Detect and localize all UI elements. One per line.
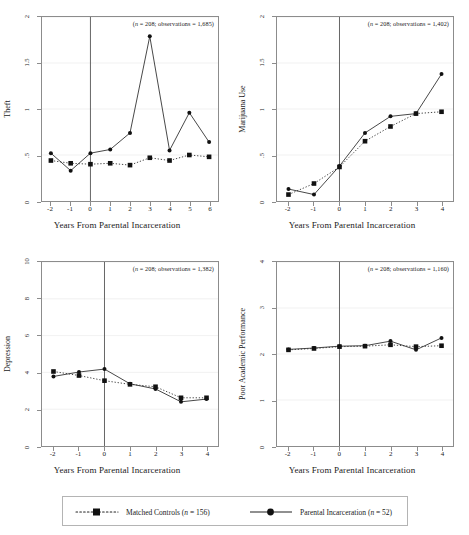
x-tick-label: -2 [278,450,298,458]
legend-label-matched-controls: Matched Controls (n = 156) [126,508,210,517]
x-tick-label: 4 [432,205,452,213]
x-tick-label: 6 [200,205,220,213]
x-tick-label: 2 [381,205,401,213]
x-tick-mark [104,447,105,451]
x-tick-label: 2 [381,450,401,458]
y-tick-label: 0 [258,192,265,212]
x-tick-mark [288,447,289,451]
data-point-marker [337,344,342,349]
x-tick-label: 4 [432,450,452,458]
plot-area-theft: (n = 208; observations = 1,685) [41,16,219,202]
y-tick-label: 0 [258,437,265,457]
x-tick-mark [182,447,183,451]
data-point-marker [363,344,368,349]
x-tick-label: 3 [407,450,427,458]
x-tick-label: 4 [197,450,217,458]
x-tick-label: -1 [68,450,88,458]
x-tick-mark [339,447,340,451]
y-axis-label-poor-academic-performance: Poor Academic Performance [237,75,249,261]
data-point-marker [51,369,56,374]
x-tick-mark [442,202,443,206]
data-point-marker [179,395,184,400]
y-axis-label-theft: Theft [2,0,14,16]
data-point-marker [388,343,393,348]
data-point-marker [108,147,112,151]
x-axis-label-depression: Years From Parental Incarceration [0,465,234,475]
y-tick-mark [37,298,41,299]
x-tick-mark [50,202,51,206]
legend-item-parental-incarceration: Parental Incarceration (n = 52) [249,506,392,518]
x-tick-label: 1 [100,205,120,213]
data-point-marker [108,161,113,166]
x-tick-mark [313,202,314,206]
y-tick-mark [272,156,276,157]
y-tick-label: 1.5 [23,53,30,73]
y-tick-mark [37,63,41,64]
panel-annotation-theft: (n = 208; observations = 1,685) [133,20,214,27]
data-point-marker [69,169,73,173]
figure-panel-grid: (n = 208; observations = 1,685)0.511.52T… [0,0,469,535]
y-tick-label: .5 [23,146,30,166]
y-tick-mark [37,373,41,374]
x-tick-mark [150,202,151,206]
x-tick-mark [365,202,366,206]
y-tick-mark [272,109,276,110]
data-point-marker [207,155,212,160]
x-tick-mark [170,202,171,206]
data-point-marker [439,109,444,114]
data-point-marker [363,131,367,135]
data-point-marker [167,158,172,163]
y-tick-mark [272,447,276,448]
data-point-marker [286,192,291,197]
x-axis-label-poor-academic-performance: Years From Parental Incarceration [235,465,469,475]
x-tick-label: 0 [329,205,349,213]
x-tick-label: -1 [303,205,323,213]
data-point-marker [312,193,316,197]
x-tick-label: 3 [172,450,192,458]
chart-panel-marijuana-use: (n = 208; observations = 1,402)0.511.52M… [235,0,469,245]
data-point-marker [68,161,73,166]
y-axis-label-depression: Depression [2,75,14,261]
data-point-marker [148,34,152,38]
data-point-marker [312,346,317,351]
y-tick-label: 1 [258,391,265,411]
data-point-marker [363,139,368,144]
y-tick-mark [37,16,41,17]
x-tick-mark [78,447,79,451]
y-tick-mark [272,202,276,203]
y-tick-label: 1.5 [258,53,265,73]
x-tick-mark [207,447,208,451]
y-tick-mark [37,261,41,262]
y-tick-label: 2 [23,6,30,26]
plot-canvas-theft [42,17,218,201]
chart-panel-poor-academic-performance: (n = 208; observations = 1,160)01234Poor… [235,245,469,490]
x-tick-mark [110,202,111,206]
x-tick-label: 3 [407,205,427,213]
data-point-marker [414,344,419,349]
y-tick-mark [272,63,276,64]
legend-item-matched-controls: Matched Controls (n = 156) [75,506,210,518]
x-tick-mark [130,202,131,206]
y-tick-label: 8 [23,288,30,308]
data-point-marker [77,373,82,378]
y-tick-mark [37,335,41,336]
y-tick-mark [272,308,276,309]
y-tick-label: 10 [23,251,30,271]
x-tick-label: 4 [160,205,180,213]
data-point-marker [286,348,291,353]
plot-area-depression: (n = 208; observations = 1,382) [41,261,219,447]
data-point-marker [286,187,290,191]
data-point-marker [204,395,209,400]
x-tick-mark [417,447,418,451]
x-tick-label: 2 [146,450,166,458]
x-tick-mark [391,202,392,206]
panel-annotation-marijuana-use: (n = 208; observations = 1,402) [368,20,449,27]
x-tick-label: -1 [60,205,80,213]
data-point-marker [187,111,191,115]
panel-annotation-poor-academic-performance: (n = 208; observations = 1,160) [368,265,449,272]
y-tick-mark [272,16,276,17]
x-tick-label: -2 [278,205,298,213]
data-point-marker [168,148,172,152]
data-point-marker [388,124,393,129]
x-tick-label: 3 [140,205,160,213]
